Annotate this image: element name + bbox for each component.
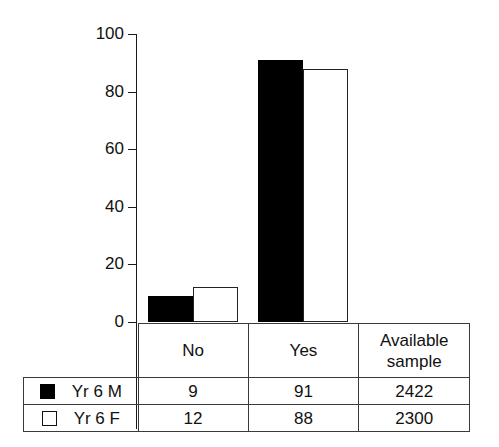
- y-tick-40: [128, 207, 137, 208]
- header-available-line1: Available: [359, 330, 469, 351]
- header-available-sample: Available sample: [359, 324, 470, 378]
- y-tick-80: [128, 92, 137, 93]
- cell-yr6f-no: 12: [138, 405, 248, 432]
- legend-label-yr6m: Yr 6 M: [72, 382, 122, 401]
- header-no: No: [138, 324, 248, 378]
- table-row: Yr 6 M 9 91 2422: [24, 378, 470, 405]
- cell-yr6m-no: 9: [138, 378, 248, 405]
- y-tick-label-40: 40: [84, 198, 124, 215]
- y-tick-20: [128, 264, 137, 265]
- cell-yr6m-available: 2422: [359, 378, 470, 405]
- y-tick-60: [128, 149, 137, 150]
- bar-no-yr6m: [148, 296, 193, 322]
- y-tick-label-80: 80: [84, 83, 124, 100]
- legend-label-yr6f: Yr 6 F: [74, 409, 120, 428]
- legend-cell-yr6f: Yr 6 F: [24, 405, 139, 432]
- bar-yes-yr6m: [258, 60, 303, 322]
- data-table: No Yes Available sample Yr 6 M 9 91 2422…: [23, 323, 470, 432]
- header-yes: Yes: [248, 324, 359, 378]
- cell-yr6f-available: 2300: [359, 405, 470, 432]
- y-tick-label-100: 100: [84, 25, 124, 42]
- table-row: Yr 6 F 12 88 2300: [24, 405, 470, 432]
- bar-no-yr6f: [193, 287, 238, 322]
- cell-yr6m-yes: 91: [248, 378, 359, 405]
- y-tick-100: [128, 34, 137, 35]
- y-tick-label-60: 60: [84, 140, 124, 157]
- header-legend-blank: [24, 324, 139, 378]
- legend-cell-yr6m: Yr 6 M: [24, 378, 139, 405]
- bar-yes-yr6f: [303, 69, 348, 322]
- y-tick-label-20: 20: [84, 255, 124, 272]
- legend-swatch-hollow-icon: [42, 411, 57, 426]
- legend-swatch-filled-icon: [40, 384, 55, 399]
- plot-area: [137, 34, 470, 322]
- header-available-line2: sample: [359, 351, 469, 372]
- cell-yr6f-yes: 88: [248, 405, 359, 432]
- bar-chart-figure: 100 80 60 40 20 0 No Yes Available sampl…: [0, 0, 499, 447]
- table-header-row: No Yes Available sample: [24, 324, 470, 378]
